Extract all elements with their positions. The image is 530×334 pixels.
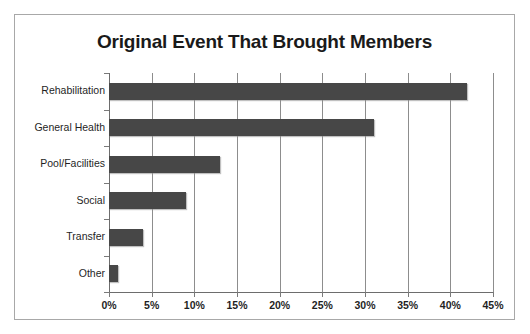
category-label: Pool/Facilities — [40, 157, 105, 169]
chart-title: Original Event That Brought Members — [15, 31, 514, 53]
x-tick-35% — [408, 292, 409, 297]
gridline-20% — [280, 73, 281, 292]
x-tick-40% — [450, 292, 451, 297]
chart-screenshot: Original Event That Brought Members Reha… — [0, 0, 530, 334]
gridline-10% — [194, 73, 195, 292]
plot-area: 0%5%10%15%20%25%30%35%40%45% — [109, 73, 493, 292]
category-label: Transfer — [66, 230, 105, 242]
chart-frame: Original Event That Brought Members Reha… — [14, 14, 515, 320]
category-label: General Health — [34, 121, 105, 133]
x-tick-5% — [152, 292, 153, 297]
bar — [109, 192, 186, 209]
y-tick — [104, 73, 109, 74]
gridline-45% — [493, 73, 494, 292]
gridline-5% — [152, 73, 153, 292]
x-axis-label-15%: 15% — [226, 299, 247, 311]
x-axis-line — [109, 292, 493, 293]
category-label: Other — [79, 267, 105, 279]
x-axis-label-5%: 5% — [144, 299, 159, 311]
y-tick — [104, 219, 109, 220]
gridline-30% — [365, 73, 366, 292]
x-tick-20% — [280, 292, 281, 297]
x-axis-label-10%: 10% — [184, 299, 205, 311]
gridline-35% — [408, 73, 409, 292]
bar — [109, 83, 467, 100]
x-tick-25% — [322, 292, 323, 297]
category-label: Rehabilitation — [41, 84, 105, 96]
bar — [109, 119, 374, 136]
x-axis-label-0%: 0% — [101, 299, 116, 311]
y-tick — [104, 183, 109, 184]
x-axis-label-45%: 45% — [482, 299, 503, 311]
gridline-15% — [237, 73, 238, 292]
y-axis-category-labels: RehabilitationGeneral HealthPool/Facilit… — [19, 73, 105, 292]
x-tick-45% — [493, 292, 494, 297]
y-tick — [104, 256, 109, 257]
gridline-40% — [450, 73, 451, 292]
bar — [109, 156, 220, 173]
x-axis-label-30%: 30% — [354, 299, 375, 311]
y-tick — [104, 110, 109, 111]
x-tick-0% — [109, 292, 110, 297]
bar — [109, 229, 143, 246]
category-label: Social — [76, 194, 105, 206]
x-axis-label-35%: 35% — [397, 299, 418, 311]
x-axis-label-25%: 25% — [312, 299, 333, 311]
bar — [109, 265, 118, 282]
y-tick — [104, 146, 109, 147]
x-tick-15% — [237, 292, 238, 297]
y-axis-line — [109, 73, 110, 292]
x-axis-label-40%: 40% — [440, 299, 461, 311]
x-axis-label-20%: 20% — [269, 299, 290, 311]
x-tick-10% — [194, 292, 195, 297]
gridline-25% — [322, 73, 323, 292]
x-tick-30% — [365, 292, 366, 297]
